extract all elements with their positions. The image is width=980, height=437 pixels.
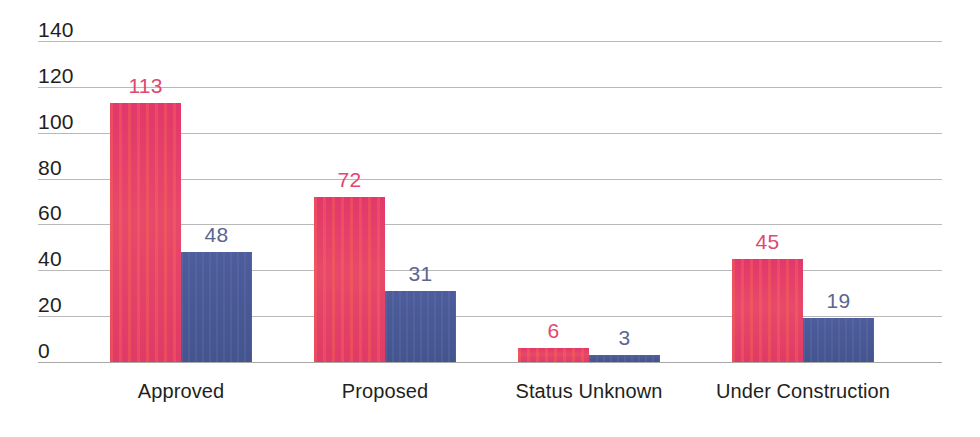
bar-series-b-0 — [181, 252, 252, 362]
data-label-series-a-0: 113 — [85, 75, 206, 96]
y-tick-label-140: 140 — [38, 19, 102, 40]
data-label-series-b-0: 48 — [156, 224, 277, 245]
data-label-series-a-1: 72 — [289, 169, 410, 190]
bar-chart: 020406080100120140 113487231634519 Appro… — [0, 0, 980, 437]
gridline-140 — [38, 41, 942, 42]
y-tick-label-80: 80 — [38, 157, 102, 178]
bar-series-b-1 — [385, 291, 456, 362]
data-label-series-b-3: 19 — [778, 290, 899, 311]
bar-series-b-2 — [589, 355, 660, 362]
bar-series-b-3 — [803, 318, 874, 362]
data-label-series-b-1: 31 — [360, 263, 481, 284]
data-label-series-a-3: 45 — [707, 231, 828, 252]
y-tick-label-20: 20 — [38, 294, 102, 315]
data-label-series-b-2: 3 — [564, 327, 685, 348]
y-tick-label-60: 60 — [38, 202, 102, 223]
bar-series-a-2 — [518, 348, 589, 362]
y-tick-label-100: 100 — [38, 111, 102, 132]
y-tick-label-40: 40 — [38, 248, 102, 269]
gridline-0 — [38, 362, 942, 363]
category-label-3: Under Construction — [673, 381, 933, 401]
y-tick-label-0: 0 — [38, 340, 102, 361]
